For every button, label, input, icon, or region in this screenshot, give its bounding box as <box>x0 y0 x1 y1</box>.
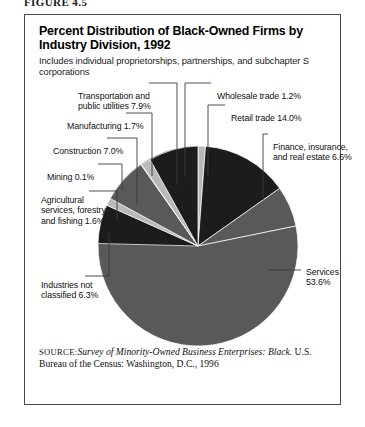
callout-transportation: Transportation and public utilities 7.9% <box>78 91 172 112</box>
callout-mining: Mining 0.1% <box>47 172 135 182</box>
callout-wholesale-trade: Wholesale trade 1.2% <box>217 91 313 101</box>
source-title: Survey of Minority-Owned Business Enterp… <box>77 346 292 357</box>
callout-finance-insurance-real-estate: Finance, insurance, and real estate 6.6% <box>273 142 361 163</box>
callout-services: Services 53.6% <box>306 267 364 288</box>
source-label: SOURCE: <box>39 347 77 357</box>
figure-box: Percent Distribution of Black-Owned Firm… <box>24 14 341 405</box>
figure-number-label: FIGURE 4.5 <box>24 0 87 8</box>
callout-retail-trade: Retail trade 14.0% <box>231 113 321 123</box>
callout-construction: Construction 7.0% <box>53 146 133 156</box>
callout-agricultural-services: Agricultural services, forestry, and fis… <box>41 195 113 226</box>
source-note: SOURCE:Survey of Minority-Owned Business… <box>39 346 331 371</box>
callout-manufacturing: Manufacturing 1.7% <box>67 121 153 131</box>
callout-industries-not-classified: Industries not classified 6.3% <box>41 280 119 301</box>
